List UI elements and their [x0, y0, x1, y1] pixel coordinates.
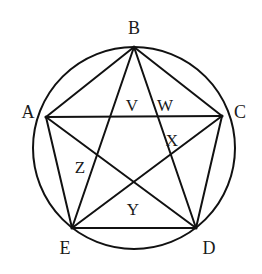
vertex-label-e: E	[60, 239, 71, 257]
circumscribed-circle-group	[33, 47, 235, 249]
geometry-figure: ABCDEVWXYZ	[0, 0, 262, 274]
vertex-point-D	[194, 226, 197, 229]
vertex-label-b: B	[128, 19, 140, 37]
vertex-label-d: D	[203, 239, 216, 257]
region-label-y: Y	[127, 201, 139, 218]
vertex-point-B	[132, 45, 135, 48]
vertex-point-E	[70, 226, 73, 229]
region-label-w: W	[157, 97, 173, 114]
vertex-point-C	[220, 114, 223, 117]
segment-AC	[46, 116, 222, 117]
vertex-label-c: C	[234, 103, 246, 121]
circle-outline	[33, 47, 235, 249]
segment-BE	[72, 47, 134, 228]
vertex-point-A	[44, 115, 47, 118]
vertex-label-a: A	[22, 103, 35, 121]
figure-canvas	[0, 0, 262, 274]
region-label-x: X	[166, 132, 178, 149]
region-label-z: Z	[75, 159, 85, 176]
region-label-v: V	[126, 97, 138, 114]
